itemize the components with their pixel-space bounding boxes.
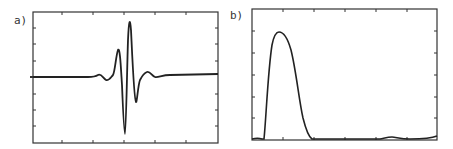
spectrum-line bbox=[252, 32, 437, 139]
panel-a-chart bbox=[30, 12, 218, 143]
panel-b-chart bbox=[252, 9, 437, 140]
figure bbox=[0, 0, 453, 149]
waveform-line bbox=[33, 22, 218, 134]
